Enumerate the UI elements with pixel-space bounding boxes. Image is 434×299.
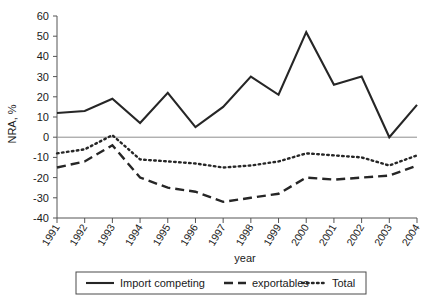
x-tick-label: 1994	[122, 222, 145, 248]
series-line-exportables	[57, 145, 417, 202]
x-tick-label: 2003	[371, 222, 394, 248]
line-chart: 6050403020100-10-20-30-40 19911992199319…	[0, 0, 434, 299]
data-series-group	[57, 32, 417, 202]
y-tick-label: -40	[33, 212, 49, 224]
x-tick-label: 1997	[205, 222, 228, 248]
y-tick-label: 10	[37, 111, 49, 123]
x-tick-label: 2004	[399, 222, 422, 248]
y-tick-label: -10	[33, 151, 49, 163]
y-tick-label: 0	[43, 131, 49, 143]
chart-legend: Import competingexportablesTotal	[76, 272, 366, 294]
x-tick-label: 2002	[344, 222, 367, 248]
y-tick-label: 20	[37, 91, 49, 103]
x-tick-label: 1995	[150, 222, 173, 248]
series-line-import-competing	[57, 32, 417, 137]
x-tick-label: 1996	[178, 222, 201, 248]
x-tick-label: 1998	[233, 222, 256, 248]
chart-container: 6050403020100-10-20-30-40 19911992199319…	[0, 0, 434, 299]
x-axis-ticks: 1991199219931994199519961997199819992000…	[39, 218, 422, 248]
legend-label: Total	[332, 277, 355, 289]
x-tick-label: 1992	[67, 222, 90, 248]
axis-lines	[57, 16, 417, 218]
y-tick-label: -30	[33, 192, 49, 204]
y-axis-ticks: 6050403020100-10-20-30-40	[33, 10, 57, 224]
series-line-total	[57, 135, 417, 167]
y-tick-label: 60	[37, 10, 49, 22]
x-tick-label: 2000	[288, 222, 311, 248]
y-tick-label: 30	[37, 71, 49, 83]
y-tick-label: 50	[37, 30, 49, 42]
x-axis-title: year	[234, 252, 256, 264]
legend-label: exportables	[252, 277, 309, 289]
legend-label: Import competing	[120, 277, 205, 289]
y-axis-title: NRA, %	[6, 104, 18, 143]
y-tick-label: -20	[33, 172, 49, 184]
y-tick-label: 40	[37, 50, 49, 62]
x-tick-label: 1993	[95, 222, 118, 248]
x-tick-label: 1991	[39, 222, 62, 248]
x-tick-label: 2001	[316, 222, 339, 248]
x-tick-label: 1999	[261, 222, 284, 248]
